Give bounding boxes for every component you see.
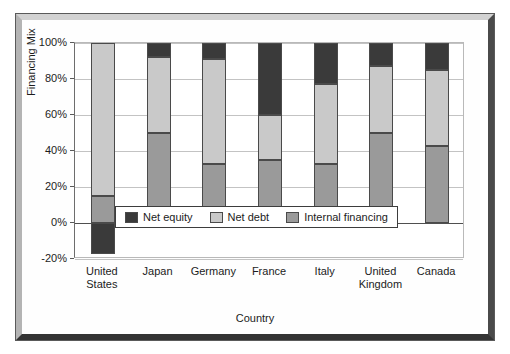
y-tick-label: 40% [45, 145, 67, 156]
bar-segment[interactable] [369, 66, 393, 133]
bar-segment[interactable] [425, 43, 449, 70]
x-category-label: Canada [391, 265, 481, 278]
bar-segment[interactable] [91, 223, 115, 254]
y-tick-label: 20% [45, 181, 67, 192]
y-tick-label: 60% [45, 109, 67, 120]
legend-swatch-internal-financing [286, 212, 299, 223]
bar-segment[interactable] [425, 146, 449, 223]
y-tick-label: -20% [41, 253, 67, 264]
bar-segment[interactable] [425, 70, 449, 146]
y-tick-label: 100% [39, 37, 67, 48]
x-axis-title: Country [0, 312, 510, 324]
y-tick-label: 80% [45, 73, 67, 84]
gridline [75, 259, 463, 260]
legend-swatch-net-debt [210, 212, 223, 223]
bar-segment[interactable] [369, 43, 393, 66]
x-category-label-line: Kingdom [335, 278, 425, 291]
bar-group[interactable] [91, 43, 115, 257]
bar-segment[interactable] [314, 84, 338, 163]
bar-segment[interactable] [147, 43, 171, 57]
legend-label-net-equity: Net equity [143, 211, 193, 223]
legend-item: Net debt [210, 211, 270, 223]
bar-segment[interactable] [314, 43, 338, 84]
x-category-label-line: States [57, 278, 147, 291]
legend-label-internal-financing: Internal financing [304, 211, 388, 223]
y-tick-mark [70, 258, 74, 259]
chart-legend: Net equity Net debt Internal financing [115, 206, 398, 228]
legend-label-net-debt: Net debt [228, 211, 270, 223]
bar-segment[interactable] [91, 196, 115, 223]
legend-item: Internal financing [286, 211, 388, 223]
bar-group[interactable] [425, 43, 449, 257]
bar-segment[interactable] [202, 59, 226, 163]
bar-segment[interactable] [91, 43, 115, 196]
page-top-artifact [0, 0, 510, 7]
y-tick-label: 0% [51, 217, 67, 228]
y-axis-title: Financing Mix [25, 28, 37, 96]
x-category-label-line: Canada [391, 265, 481, 278]
legend-swatch-net-equity [125, 212, 138, 223]
bar-segment[interactable] [202, 43, 226, 59]
bar-segment[interactable] [258, 43, 282, 115]
bar-segment[interactable] [258, 115, 282, 160]
legend-item: Net equity [125, 211, 193, 223]
bar-segment[interactable] [147, 57, 171, 133]
